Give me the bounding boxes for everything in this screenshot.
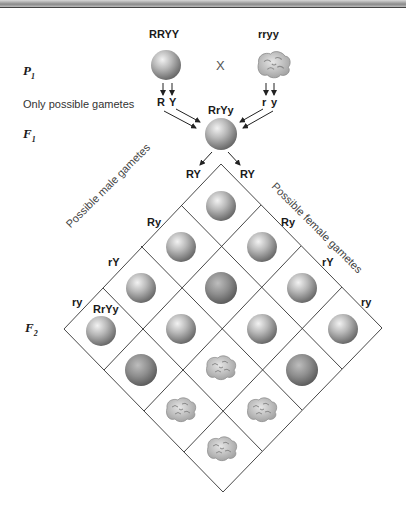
pea-0-3 (328, 314, 358, 344)
pea-1-2 (247, 314, 277, 344)
parent-right-pea (258, 52, 290, 78)
f2-peas (86, 191, 358, 461)
pea-3-0 (86, 316, 116, 346)
parent-left-pea (151, 50, 181, 80)
pea-3-3 (207, 437, 236, 461)
pea-0-2 (287, 273, 317, 303)
pea-2-1 (166, 314, 196, 344)
pea-1-3 (286, 354, 318, 386)
f1-pea (205, 118, 237, 150)
pea-2-3 (247, 398, 276, 422)
diagram-canvas (0, 0, 406, 520)
pea-0-1 (247, 232, 277, 262)
pea-1-0 (166, 232, 196, 262)
pea-0-0 (206, 191, 236, 221)
pea-2-2 (206, 356, 235, 380)
pea-3-1 (125, 354, 157, 386)
pea-1-1 (205, 272, 237, 304)
pea-3-2 (166, 398, 195, 422)
pea-2-0 (126, 273, 156, 303)
